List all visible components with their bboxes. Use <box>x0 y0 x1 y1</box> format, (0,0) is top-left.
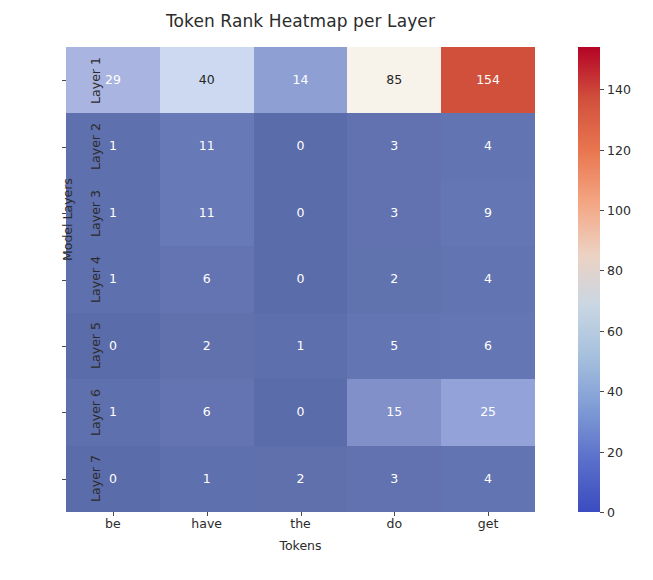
colorbar-tick-label: 140 <box>607 82 631 97</box>
heatmap-cell: 6 <box>160 379 254 445</box>
x-axis-label: Tokens <box>66 538 535 553</box>
y-axis-tick-label: Layer 1 <box>84 47 106 113</box>
colorbar-tick <box>600 512 604 513</box>
heatmap-cell: 1 <box>66 113 160 179</box>
colorbar-tick <box>600 331 604 332</box>
heatmap-cell: 25 <box>441 379 535 445</box>
heatmap-cell-value: 0 <box>109 473 117 486</box>
y-axis-label: Model Layers <box>60 178 75 261</box>
colorbar-tick-label: 60 <box>607 323 623 338</box>
y-axis-tick <box>62 147 66 148</box>
heatmap-cell-value: 11 <box>199 207 215 220</box>
heatmap-cell-value: 2 <box>203 340 211 353</box>
heatmap-cell-value: 1 <box>109 140 117 153</box>
y-axis-tick-labels: Layer 1Layer 2Layer 3Layer 4Layer 5Layer… <box>84 47 106 512</box>
heatmap-cell-grid: 2940148515411103411103916024021561601525… <box>66 47 535 512</box>
heatmap-cell: 14 <box>254 47 348 113</box>
heatmap-cell: 2 <box>254 446 348 512</box>
x-axis-tick-label: have <box>160 516 254 536</box>
heatmap-cell: 85 <box>347 47 441 113</box>
y-axis-tick <box>62 213 66 214</box>
heatmap-cell: 2 <box>160 313 254 379</box>
heatmap-cell-value: 1 <box>203 473 211 486</box>
heatmap-cell: 0 <box>254 180 348 246</box>
heatmap-cell: 6 <box>441 313 535 379</box>
heatmap-cell: 40 <box>160 47 254 113</box>
heatmap-cell: 3 <box>347 180 441 246</box>
heatmap-cell-value: 40 <box>199 74 215 87</box>
heatmap-cell-value: 4 <box>484 273 492 286</box>
heatmap-cell-value: 2 <box>390 273 398 286</box>
heatmap-cell: 29 <box>66 47 160 113</box>
heatmap-cell-value: 2 <box>297 473 305 486</box>
x-axis-tick-label: be <box>66 516 160 536</box>
x-axis-tick <box>394 512 395 516</box>
heatmap-cell: 0 <box>254 379 348 445</box>
heatmap-cell-value: 0 <box>297 140 305 153</box>
y-axis-tick <box>62 479 66 480</box>
heatmap-cell-value: 1 <box>109 406 117 419</box>
colorbar-tick <box>600 89 604 90</box>
colorbar-tick <box>600 452 604 453</box>
x-axis-tick <box>113 512 114 516</box>
heatmap-cell: 0 <box>254 246 348 312</box>
x-axis-tick-labels: behavethedoget <box>66 516 535 536</box>
y-axis-tick-label: Layer 3 <box>84 180 106 246</box>
y-axis-tick-label: Layer 4 <box>84 246 106 312</box>
y-axis-tick-label: Layer 6 <box>84 379 106 445</box>
colorbar-tick-label: 20 <box>607 444 623 459</box>
heatmap-plot-area: 2940148515411103411103916024021561601525… <box>66 47 535 512</box>
heatmap-cell: 1 <box>254 313 348 379</box>
heatmap-cell-value: 11 <box>199 140 215 153</box>
heatmap-cell-value: 1 <box>109 273 117 286</box>
heatmap-cell: 11 <box>160 180 254 246</box>
heatmap-cell-value: 29 <box>105 74 121 87</box>
heatmap-cell-value: 5 <box>390 340 398 353</box>
colorbar-tick <box>600 270 604 271</box>
colorbar: 020406080100120140 <box>578 47 600 512</box>
heatmap-cell-value: 3 <box>390 140 398 153</box>
x-axis-tick <box>301 512 302 516</box>
chart-title: Token Rank Heatmap per Layer <box>66 11 535 31</box>
heatmap-cell: 6 <box>160 246 254 312</box>
colorbar-tick <box>600 150 604 151</box>
heatmap-cell: 11 <box>160 113 254 179</box>
heatmap-cell-value: 154 <box>476 74 500 87</box>
heatmap-cell-value: 4 <box>484 140 492 153</box>
heatmap-cell-value: 0 <box>109 340 117 353</box>
x-axis-tick-label: do <box>347 516 441 536</box>
heatmap-cell-value: 85 <box>386 74 402 87</box>
heatmap-cell: 2 <box>347 246 441 312</box>
colorbar-tick-label: 40 <box>607 384 623 399</box>
heatmap-figure: Token Rank Heatmap per Layer 29401485154… <box>0 0 653 580</box>
heatmap-cell: 1 <box>66 180 160 246</box>
heatmap-cell-value: 6 <box>203 406 211 419</box>
heatmap-cell-value: 15 <box>386 406 402 419</box>
heatmap-cell-value: 6 <box>203 273 211 286</box>
heatmap-cell: 1 <box>66 379 160 445</box>
heatmap-cell: 5 <box>347 313 441 379</box>
heatmap-cell: 0 <box>66 313 160 379</box>
colorbar-tick-label: 80 <box>607 263 623 278</box>
x-axis-tick-label: get <box>441 516 535 536</box>
heatmap-cell-value: 1 <box>109 207 117 220</box>
heatmap-cell: 4 <box>441 446 535 512</box>
heatmap-cell: 4 <box>441 246 535 312</box>
colorbar-tick-label: 0 <box>607 505 615 520</box>
heatmap-cell-value: 14 <box>293 74 309 87</box>
heatmap-cell: 3 <box>347 446 441 512</box>
y-axis-tick-label: Layer 7 <box>84 446 106 512</box>
heatmap-cell: 1 <box>66 246 160 312</box>
colorbar-tick-label: 100 <box>607 203 631 218</box>
colorbar-tick-label: 120 <box>607 142 631 157</box>
heatmap-cell: 4 <box>441 113 535 179</box>
heatmap-cell-value: 9 <box>484 207 492 220</box>
heatmap-cell-value: 0 <box>297 406 305 419</box>
heatmap-cell: 1 <box>160 446 254 512</box>
heatmap-cell: 0 <box>66 446 160 512</box>
x-axis-tick <box>488 512 489 516</box>
y-axis-tick <box>62 80 66 81</box>
colorbar-gradient <box>578 47 600 512</box>
heatmap-cell: 154 <box>441 47 535 113</box>
y-axis-tick-label: Layer 5 <box>84 313 106 379</box>
